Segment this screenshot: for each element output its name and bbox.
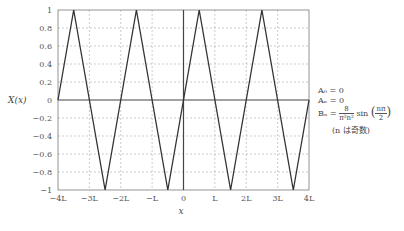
svg-text:0.8: 0.8 (39, 24, 52, 33)
svg-text:0: 0 (47, 96, 52, 105)
svg-text:2L: 2L (241, 194, 252, 203)
y-tick-labels: 10.80.60.40.20−0.2−0.4−0.6−0.8−1 (33, 6, 52, 195)
odd-n-note: (n は奇数) (332, 126, 370, 136)
svg-text:0.4: 0.4 (39, 60, 52, 69)
x-tick-labels: −4L−3L−2L−L0L2L3L4L (49, 194, 314, 203)
svg-text:−L: −L (146, 194, 159, 203)
svg-text:L: L (212, 194, 218, 203)
svg-text:−4L: −4L (49, 194, 67, 203)
svg-text:−0.8: −0.8 (33, 168, 52, 177)
svg-text:0: 0 (181, 194, 186, 203)
y-axis-label: X(x) (7, 95, 27, 105)
svg-text:−0.6: −0.6 (33, 150, 52, 159)
svg-text:0.6: 0.6 (39, 42, 52, 51)
x-axis-label: x (178, 206, 183, 216)
svg-text:−3L: −3L (81, 194, 99, 203)
svg-text:1: 1 (47, 6, 52, 15)
bn-fraction: 8 π²n² (339, 105, 354, 122)
svg-text:−0.2: −0.2 (33, 114, 52, 123)
svg-text:0.2: 0.2 (39, 78, 52, 87)
svg-text:4L: 4L (304, 194, 315, 203)
svg-text:3L: 3L (272, 194, 283, 203)
svg-text:−2L: −2L (112, 194, 130, 203)
coef-bn: Bₙ = 8 π²n² sin (nπ2) (318, 105, 391, 122)
svg-text:−0.4: −0.4 (33, 132, 52, 141)
coef-a0: A₀ = 0 (318, 86, 344, 96)
sin-arg-fraction: nπ2 (375, 105, 386, 122)
